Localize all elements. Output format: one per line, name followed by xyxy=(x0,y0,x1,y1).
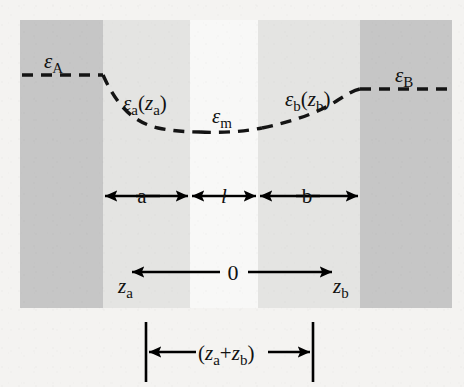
label-epsilon-b-arg-subscript: b xyxy=(316,98,324,114)
band-region-m xyxy=(190,20,258,308)
label-epsilon-a-of-za: εa(za) xyxy=(123,91,167,118)
label-epsilon-b-paren-open: ( xyxy=(301,87,308,111)
permittivity-profile-figure: z_b ===== --> | ===== --> εA εa(za) εm xyxy=(0,0,464,387)
label-epsilon-B-subscript: B xyxy=(403,74,413,90)
label-dim-b: b xyxy=(302,184,313,208)
label-epsilon-a-paren-close: ) xyxy=(160,91,167,115)
label-total-zb: z xyxy=(231,341,240,365)
label-epsilon-b-of-zb: εb(zb) xyxy=(285,87,330,114)
label-axis-zb-subscript: b xyxy=(341,285,349,301)
label-epsilon-A-subscript: A xyxy=(52,60,63,76)
label-total-zb-subscript: b xyxy=(240,352,248,368)
label-dim-a: a xyxy=(137,184,147,208)
label-total-paren-close: ) xyxy=(247,341,254,365)
label-total-plus: + xyxy=(220,341,232,365)
band-region-b xyxy=(258,20,360,308)
label-axis-za-subscript: a xyxy=(126,285,133,301)
label-epsilon-b-arg: z xyxy=(307,87,316,111)
label-origin-zero: 0 xyxy=(228,260,239,285)
label-axis-zb-glyph: z xyxy=(332,274,341,298)
label-epsilon-b-paren-close: ) xyxy=(323,87,330,111)
label-epsilon-b-subscript: b xyxy=(293,98,301,114)
label-total-za: z xyxy=(204,341,213,365)
label-total-paren-open: ( xyxy=(198,341,205,365)
label-total-width: (za+zb) xyxy=(198,341,254,368)
label-epsilon-m-subscript: m xyxy=(220,115,232,131)
figure-canvas: z_b ===== --> | ===== --> εA εa(za) εm xyxy=(0,0,464,387)
label-axis-za-glyph: z xyxy=(117,274,126,298)
band-region-a xyxy=(103,20,190,308)
band-slab-B xyxy=(360,20,452,308)
label-epsilon-a-arg: z xyxy=(144,91,153,115)
label-dim-l: l xyxy=(221,184,227,208)
label-epsilon-a-paren-open: ( xyxy=(138,91,145,115)
